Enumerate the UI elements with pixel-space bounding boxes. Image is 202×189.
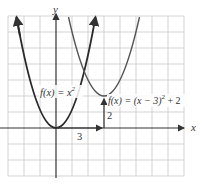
y-axis-label: y <box>52 3 58 15</box>
graph-canvas: y x f(x) = x2 f(x) = (x − 3)2 + 2 2 3 <box>0 0 202 189</box>
x-axis-label: x <box>190 121 196 133</box>
f2-label: f(x) = (x − 3)2 + 2 <box>108 93 181 107</box>
curve-x-squared-left-arrow <box>17 17 21 36</box>
f1-label: f(x) = x2 <box>40 85 76 99</box>
vertical-shift-label: 2 <box>107 110 112 121</box>
horizontal-shift-label: 3 <box>77 131 82 142</box>
